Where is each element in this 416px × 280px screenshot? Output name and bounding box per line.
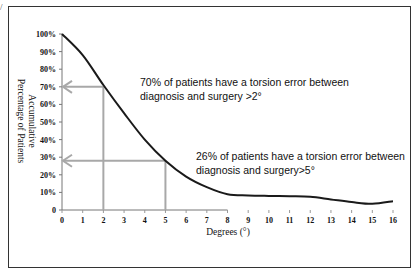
y-tick-label: 100% — [36, 30, 56, 39]
y-axis-label-line1: Accumulative — [27, 94, 37, 147]
x-axis-ticks: 012345678910111213141516 — [60, 210, 397, 225]
x-tick-label: 16 — [389, 216, 397, 225]
y-tick-label: 60% — [40, 100, 56, 109]
x-tick-label: 1 — [81, 216, 85, 225]
y-tick-label: 90% — [40, 48, 56, 57]
x-tick-label: 8 — [226, 216, 230, 225]
x-tick-label: 3 — [122, 216, 126, 225]
x-tick-label: 4 — [143, 216, 147, 225]
x-tick-label: 14 — [348, 216, 356, 225]
x-tick-label: 5 — [163, 216, 167, 225]
x-tick-label: 6 — [184, 216, 188, 225]
x-tick-label: 15 — [368, 216, 376, 225]
y-tick-label: 50% — [40, 118, 56, 127]
y-axis-label-line2: Percentage of Patients — [16, 79, 26, 164]
annotation-70-line2: diagnosis and surgery >2° — [140, 90, 262, 102]
y-tick-label: 40% — [40, 136, 56, 145]
annotation-26-line2: diagnosis and surgery>5° — [196, 164, 315, 176]
x-tick-label: 2 — [101, 216, 105, 225]
x-tick-label: 13 — [327, 216, 335, 225]
y-tick-label: 0 — [52, 206, 56, 215]
x-tick-label: 12 — [306, 216, 314, 225]
x-tick-label: 0 — [60, 216, 64, 225]
y-tick-label: 30% — [40, 153, 56, 162]
data-curve — [62, 34, 393, 204]
x-tick-label: 10 — [265, 216, 273, 225]
annotation-70-line1: 70% of patients have a torsion error bet… — [140, 76, 349, 88]
y-tick-label: 10% — [40, 188, 56, 197]
x-tick-label: 9 — [246, 216, 250, 225]
x-tick-label: 7 — [205, 216, 209, 225]
annotation-26-line1: 26% of patients have a torsion error bet… — [196, 150, 405, 162]
y-tick-label: 70% — [40, 83, 56, 92]
y-tick-label: 20% — [40, 171, 56, 180]
y-axis-ticks: 010%20%30%40%50%60%70%80%90%100% — [36, 30, 62, 215]
x-tick-label: 11 — [286, 216, 294, 225]
x-axis-label: Degrees (°) — [206, 227, 250, 238]
chart-svg: 010%20%30%40%50%60%70%80%90%100% 0123456… — [0, 0, 416, 280]
y-tick-label: 80% — [40, 65, 56, 74]
